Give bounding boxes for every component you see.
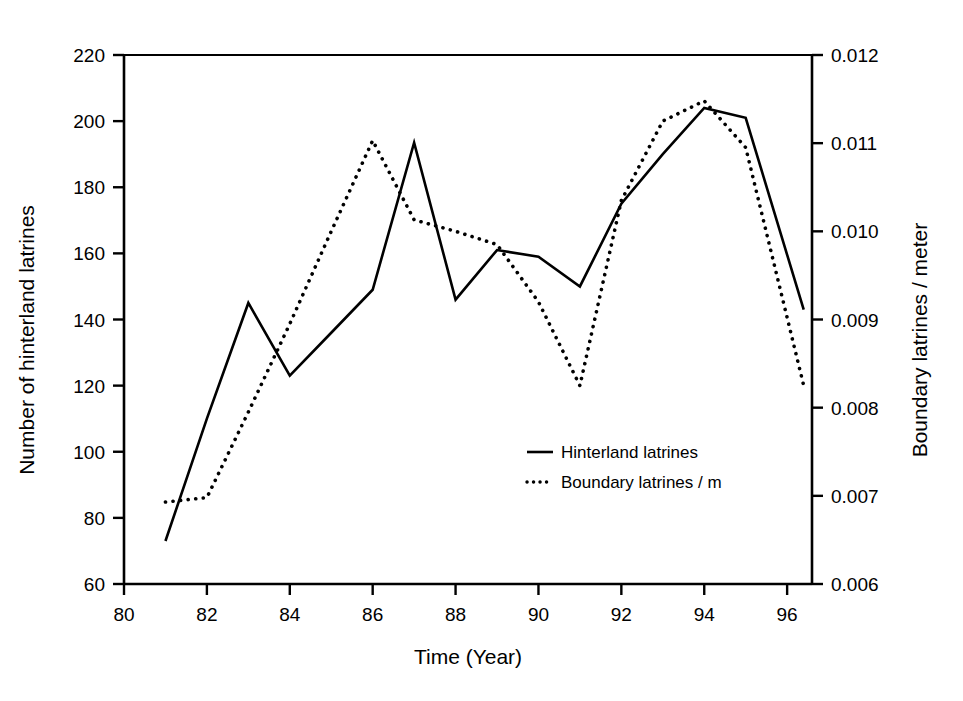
x-tick-label: 94 <box>694 604 716 625</box>
y-tick-label: 180 <box>73 177 105 198</box>
legend-label: Boundary latrines / m <box>561 473 722 492</box>
x-tick-label: 82 <box>196 604 217 625</box>
x-tick-label: 88 <box>445 604 466 625</box>
line-chart: 808284868890929496 608010012014016018020… <box>0 0 963 701</box>
y2-tick-label: 0.006 <box>831 574 879 595</box>
y2-tick-label: 0.007 <box>831 486 879 507</box>
legend-label: Hinterland latrines <box>561 443 698 462</box>
y-tick-label: 220 <box>73 45 105 66</box>
y-tick-label: 140 <box>73 310 105 331</box>
x-tick-label: 92 <box>611 604 632 625</box>
y-tick-label: 80 <box>84 508 105 529</box>
y2-tick-label: 0.008 <box>831 398 879 419</box>
y-tick-label: 160 <box>73 243 105 264</box>
x-tick-label: 96 <box>777 604 798 625</box>
x-tick-label: 84 <box>279 604 301 625</box>
y-tick-label: 100 <box>73 442 105 463</box>
y-tick-label: 120 <box>73 376 105 397</box>
x-tick-label: 80 <box>113 604 134 625</box>
y-axis-right-title: Boundary latrines / meter <box>908 223 931 458</box>
y2-tick-label: 0.011 <box>831 133 877 154</box>
y-tick-label: 200 <box>73 111 105 132</box>
chart-background <box>0 0 963 701</box>
x-tick-label: 86 <box>362 604 383 625</box>
y2-tick-label: 0.012 <box>831 45 879 66</box>
y2-tick-label: 0.009 <box>831 310 879 331</box>
x-tick-label: 90 <box>528 604 549 625</box>
x-axis-title: Time (Year) <box>414 645 522 668</box>
y-axis-left-title: Number of hinterland latrines <box>15 205 38 475</box>
chart-container: 808284868890929496 608010012014016018020… <box>0 0 963 701</box>
y2-tick-label: 0.010 <box>831 221 879 242</box>
y-tick-label: 60 <box>84 574 105 595</box>
